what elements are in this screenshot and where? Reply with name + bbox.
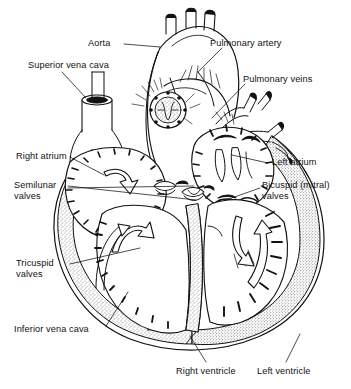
label-left-ventricle: Left ventricle [257,366,311,377]
coronary-vessels [132,78,200,129]
heart-anatomy-figure: Aorta Pulmonary artery Superior vena cav… [0,0,351,389]
superior-vena-cava-leader [62,72,86,98]
brachiocephalic-branches [166,8,215,34]
aorta-leader [124,44,160,47]
label-semilunar-valves: Semilunar valves [14,180,56,202]
label-right-ventricle: Right ventricle [176,366,236,377]
label-left-atrium: Left atrium [272,157,317,168]
label-pulmonary-artery: Pulmonary artery [210,38,282,49]
left-ventricle-leader [286,334,300,362]
pulmonary-artery-leader [198,48,222,72]
label-inferior-vena-cava: Inferior vena cava [14,324,89,335]
label-pulmonary-veins: Pulmonary veins [243,74,312,85]
label-bicuspid-valves: Bicuspid (mitral) valves [262,180,330,202]
label-superior-vena-cava: Superior vena cava [28,60,109,71]
label-right-atrium: Right atrium [16,151,67,162]
label-tricuspid-valves: Tricuspid valves [16,258,54,280]
label-aorta: Aorta [88,38,110,49]
